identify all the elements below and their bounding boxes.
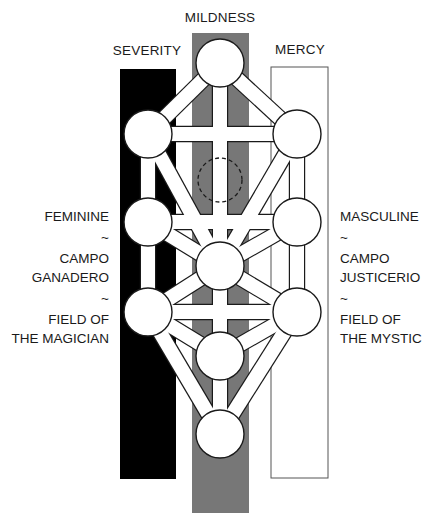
pillar-label-severity: SEVERITY bbox=[113, 43, 181, 58]
tree-of-life-diagram: MILDNESS SEVERITY MERCY FEMININE ~ CAMPO… bbox=[0, 0, 430, 524]
sephira-right_mid bbox=[273, 198, 321, 246]
pillar-label-mildness: MILDNESS bbox=[185, 10, 256, 25]
sephira-left_mid bbox=[124, 198, 172, 246]
sephira-right_lower bbox=[273, 288, 321, 336]
caption-campo: CAMPO bbox=[340, 249, 422, 268]
caption-field-of: FIELD OF bbox=[340, 310, 422, 329]
caption-separator: ~ bbox=[340, 287, 422, 310]
sephira-left_upper bbox=[124, 110, 172, 158]
sephira-lower_center bbox=[196, 332, 244, 380]
caption-feminine: FEMININE bbox=[11, 207, 109, 226]
caption-ganadero: GANADERO bbox=[11, 268, 109, 287]
right-side-caption: MASCULINE ~ CAMPO JUSTICERIO ~ FIELD OF … bbox=[340, 207, 422, 348]
caption-the-magician: THE MAGICIAN bbox=[11, 329, 109, 348]
caption-field-of: FIELD OF bbox=[11, 310, 109, 329]
caption-masculine: MASCULINE bbox=[340, 207, 422, 226]
sephira-left_lower bbox=[124, 288, 172, 336]
sephira-bottom bbox=[196, 410, 244, 458]
sephira-top bbox=[196, 39, 244, 87]
caption-separator: ~ bbox=[340, 226, 422, 249]
caption-the-mystic: THE MYSTIC bbox=[340, 329, 422, 348]
pillar-label-mercy: MERCY bbox=[275, 42, 325, 57]
sephira-center bbox=[196, 242, 244, 290]
sephira-right_upper bbox=[273, 110, 321, 158]
caption-campo: CAMPO bbox=[11, 249, 109, 268]
caption-justicerio: JUSTICERIO bbox=[340, 268, 422, 287]
caption-separator: ~ bbox=[11, 226, 109, 249]
caption-separator: ~ bbox=[11, 287, 109, 310]
left-side-caption: FEMININE ~ CAMPO GANADERO ~ FIELD OF THE… bbox=[11, 207, 109, 348]
